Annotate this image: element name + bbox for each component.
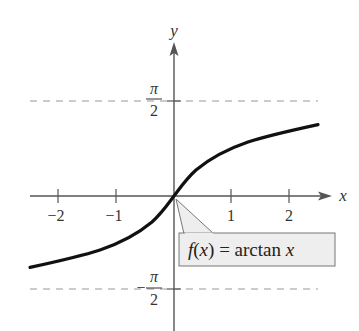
svg-text:2: 2 bbox=[150, 102, 158, 119]
plot-area: y x −2 −1 1 2 π 2 − π 2 f(x) = arctan x bbox=[0, 0, 359, 331]
svg-text:π: π bbox=[150, 80, 159, 97]
y-axis-label: y bbox=[168, 21, 178, 40]
x-tick-label-2: 2 bbox=[285, 207, 293, 224]
y-tick-label-minus-pi-over-2: − π 2 bbox=[136, 268, 162, 308]
x-tick-label-minus-2: −2 bbox=[47, 207, 64, 224]
svg-text:π: π bbox=[150, 268, 159, 285]
x-axis-label: x bbox=[338, 186, 347, 205]
y-tick-label-pi-over-2: π 2 bbox=[146, 80, 162, 119]
callout-label: f(x) = arctan x bbox=[188, 239, 295, 261]
x-tick-label-minus-1: −1 bbox=[105, 207, 122, 224]
arctan-graph: y x −2 −1 1 2 π 2 − π 2 f(x) = arctan x bbox=[0, 0, 359, 331]
svg-text:2: 2 bbox=[150, 291, 158, 308]
svg-text:−: − bbox=[136, 279, 145, 296]
callout-pointer bbox=[176, 199, 214, 234]
x-tick-label-1: 1 bbox=[227, 207, 235, 224]
